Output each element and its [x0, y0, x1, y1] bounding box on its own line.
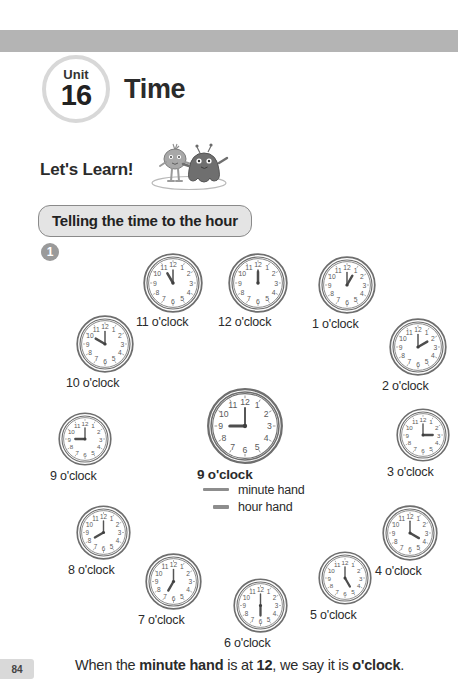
svg-text:2: 2 — [360, 273, 364, 280]
footer-sentence: When the minute hand is at 12, we say it… — [75, 657, 404, 673]
svg-text:11: 11 — [162, 563, 169, 570]
svg-text:8: 8 — [88, 537, 92, 544]
svg-text:10: 10 — [86, 332, 94, 339]
svg-text:12: 12 — [101, 323, 109, 330]
clock-8-label: 8 o'clock — [68, 563, 114, 577]
svg-text:12: 12 — [254, 261, 262, 268]
svg-text:8: 8 — [394, 538, 398, 545]
svg-text:2: 2 — [423, 521, 427, 528]
clock-9-label: 9 o'clock — [50, 469, 96, 483]
svg-text:8: 8 — [88, 349, 92, 356]
clock-1: 121234567891011 — [318, 256, 376, 318]
clock-8: 121234567891011 — [76, 505, 131, 564]
clock-11: 121234567891011 — [143, 253, 203, 317]
svg-text:10: 10 — [392, 521, 400, 528]
question-number: 1 — [41, 243, 59, 261]
hour-hand-icon — [213, 505, 229, 509]
svg-text:8: 8 — [401, 352, 405, 359]
svg-text:6: 6 — [172, 595, 176, 602]
svg-text:12: 12 — [170, 561, 178, 568]
svg-text:2: 2 — [431, 335, 435, 342]
svg-text:11: 11 — [160, 264, 167, 271]
worksheet-page: Unit 16 Time Let's Learn! — [0, 0, 458, 685]
svg-text:9: 9 — [86, 529, 90, 536]
svg-text:12: 12 — [414, 326, 422, 333]
svg-text:10: 10 — [155, 570, 163, 577]
svg-text:8: 8 — [157, 586, 161, 593]
svg-text:3: 3 — [267, 421, 272, 431]
clock-8-face: 121234567891011 — [76, 505, 131, 564]
page-number: 84 — [0, 659, 34, 679]
svg-text:3: 3 — [437, 432, 441, 439]
svg-text:6: 6 — [416, 361, 420, 368]
clock-1-face: 121234567891011 — [318, 256, 376, 318]
svg-text:9: 9 — [86, 341, 90, 348]
page-title: Time — [124, 74, 185, 105]
svg-text:10: 10 — [399, 335, 407, 342]
svg-text:9: 9 — [328, 282, 332, 289]
svg-text:6: 6 — [256, 298, 260, 305]
svg-text:9: 9 — [399, 344, 403, 351]
svg-text:3: 3 — [359, 575, 363, 582]
svg-text:9: 9 — [392, 530, 396, 537]
clock-6-face: 121234567891011 — [233, 578, 288, 637]
svg-text:2: 2 — [116, 521, 120, 528]
svg-text:4: 4 — [116, 537, 120, 544]
unit-number: 16 — [61, 82, 91, 110]
minute-hand-label: minute hand — [238, 483, 305, 497]
svg-text:3: 3 — [362, 282, 366, 289]
clock-1-label: 1 o'clock — [312, 317, 358, 331]
clock-2-face: 121234567891011 — [389, 318, 447, 380]
svg-text:4: 4 — [273, 610, 277, 617]
clock-4-face: 121234567891011 — [382, 505, 438, 565]
svg-text:11: 11 — [93, 326, 100, 333]
svg-text:6: 6 — [103, 358, 107, 365]
svg-text:4: 4 — [357, 582, 361, 589]
svg-text:12: 12 — [343, 264, 351, 271]
clock-3: 121234567891011 — [396, 408, 450, 466]
svg-text:2: 2 — [187, 270, 191, 277]
footer-part-4: . — [400, 657, 404, 673]
clock-9-face: 121234567891011 — [58, 412, 112, 470]
clock-7-label: 7 o'clock — [138, 613, 184, 627]
svg-text:8: 8 — [330, 582, 334, 589]
unit-badge: Unit 16 — [42, 55, 110, 123]
svg-text:2: 2 — [264, 409, 269, 419]
svg-text:11: 11 — [398, 515, 405, 522]
svg-text:8: 8 — [330, 290, 334, 297]
clock-11-label: 11 o'clock — [136, 315, 188, 329]
svg-text:3: 3 — [99, 436, 103, 443]
svg-text:2: 2 — [97, 428, 101, 435]
svg-text:4: 4 — [187, 289, 191, 296]
svg-text:11: 11 — [406, 329, 413, 336]
svg-text:4: 4 — [264, 433, 269, 443]
svg-text:4: 4 — [435, 439, 439, 446]
clock-4-label: 4 o'clock — [375, 564, 421, 578]
svg-text:4: 4 — [272, 289, 276, 296]
svg-text:3: 3 — [189, 280, 193, 287]
clock-center-label: 9 o'clock — [197, 467, 252, 482]
svg-text:11: 11 — [74, 422, 81, 429]
footer-bold-oclock: o'clock — [352, 657, 400, 673]
clock-7-face: 121234567891011 — [145, 553, 202, 614]
svg-text:4: 4 — [423, 538, 427, 545]
svg-text:8: 8 — [155, 289, 159, 296]
svg-text:4: 4 — [118, 349, 122, 356]
section-heading: Telling the time to the hour — [38, 205, 252, 237]
svg-text:12: 12 — [406, 513, 414, 520]
svg-text:2: 2 — [186, 570, 190, 577]
hour-hand-label: hour hand — [238, 500, 293, 514]
svg-text:3: 3 — [189, 578, 193, 585]
clock-10-face: 121234567891011 — [76, 315, 134, 377]
clock-12-face: 121234567891011 — [228, 253, 288, 317]
svg-text:3: 3 — [274, 280, 278, 287]
footer-part-2: is at — [223, 657, 256, 673]
svg-text:9: 9 — [153, 280, 157, 287]
svg-text:3: 3 — [433, 344, 437, 351]
svg-text:4: 4 — [186, 586, 190, 593]
clock-12: 121234567891011 — [228, 253, 288, 317]
clock-2: 121234567891011 — [389, 318, 447, 380]
svg-text:8: 8 — [408, 439, 412, 446]
footer-bold-minute-hand: minute hand — [139, 657, 223, 673]
clock-5: 121234567891011 — [318, 551, 372, 609]
